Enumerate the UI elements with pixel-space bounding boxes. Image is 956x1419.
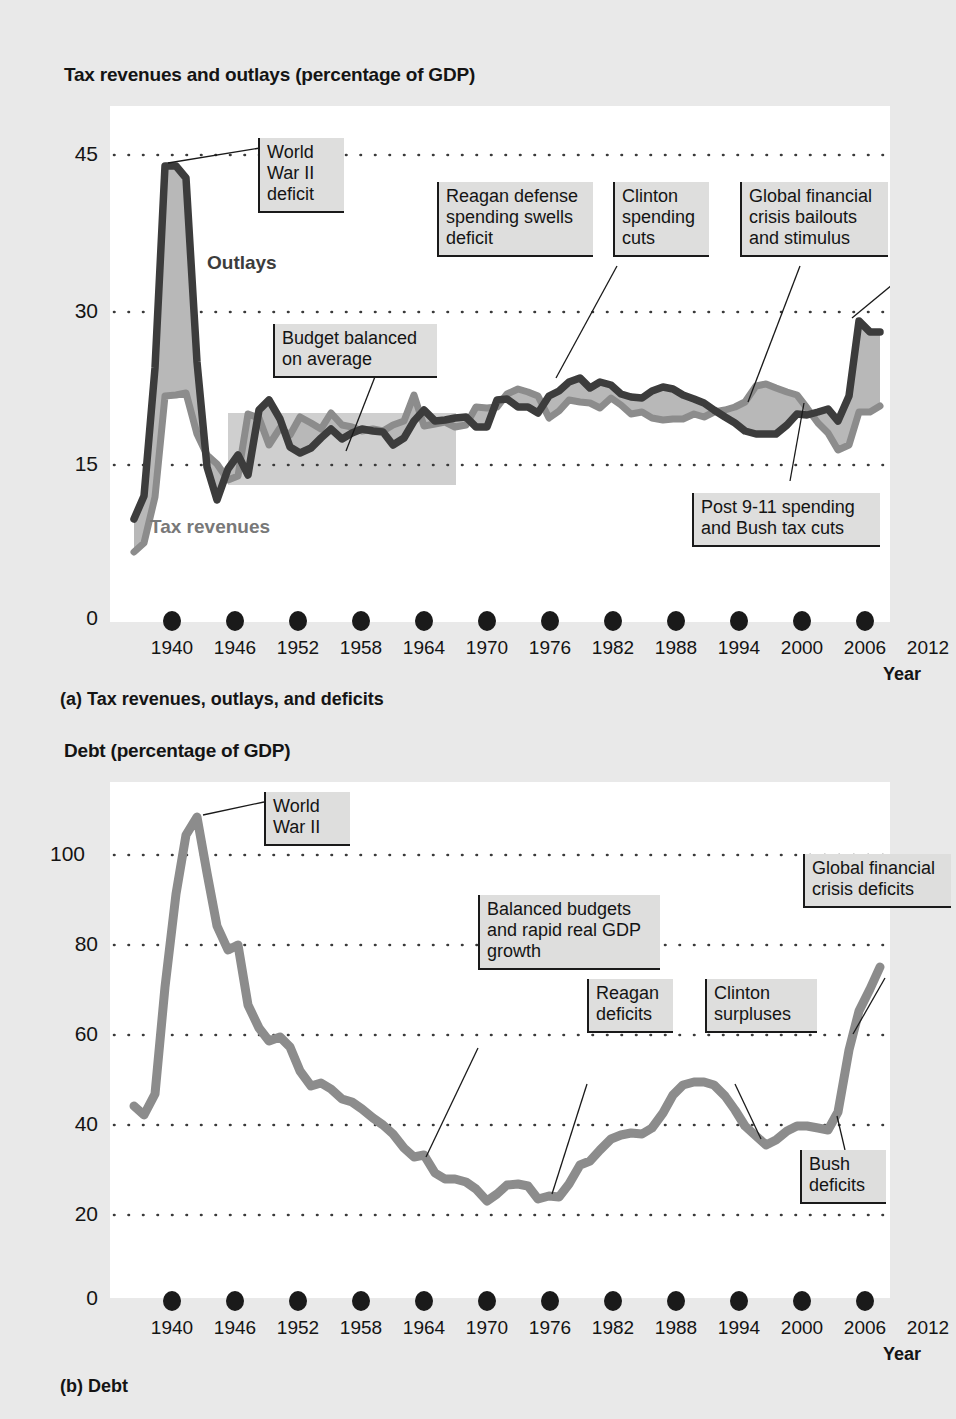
panel-b-xtick-markers: [110, 1288, 900, 1314]
panel-b-xtick-2006: 2006: [835, 1317, 895, 1339]
panel-b-ytick-100: 100: [25, 842, 85, 866]
panel-a-ytick-30: 30: [38, 299, 98, 323]
panel-a-xtick-1982: 1982: [583, 637, 643, 659]
callout-budget-balanced: Budget balanced on average: [273, 324, 437, 378]
panel-a-xtick-1958: 1958: [331, 637, 391, 659]
panel-a-xtick-markers: [110, 608, 900, 634]
panel-a-xtick-1964: 1964: [394, 637, 454, 659]
callout-clinton-surpluses: Clinton surpluses: [705, 979, 817, 1033]
panel-b-ytick-0: 0: [38, 1286, 98, 1310]
callout-wwii-deficit: World War II deficit: [258, 138, 344, 213]
panel-a-ytick-15: 15: [38, 452, 98, 476]
callout-wwii: World War II: [264, 792, 350, 846]
panel-b-plot-area: [110, 782, 890, 1298]
panel-b-xtick-1988: 1988: [646, 1317, 706, 1339]
panel-b-xtick-2000: 2000: [772, 1317, 832, 1339]
panel-a-xaxis-name: Year: [883, 664, 921, 685]
panel-b-ytick-60: 60: [38, 1022, 98, 1046]
panel-b-ytick-80: 80: [38, 932, 98, 956]
panel-a-xtick-1940: 1940: [142, 637, 202, 659]
callout-post-911-bush: Post 9-11 spending and Bush tax cuts: [692, 493, 880, 547]
panel-a-xtick-2000: 2000: [772, 637, 832, 659]
panel-b-title: Debt (percentage of GDP): [64, 740, 290, 762]
panel-b-ytick-40: 40: [38, 1112, 98, 1136]
panel-a-xtick-1946: 1946: [205, 637, 265, 659]
panel-b-xtick-1964: 1964: [394, 1317, 454, 1339]
panel-b-xtick-1958: 1958: [331, 1317, 391, 1339]
callout-reagan-deficits: Reagan deficits: [587, 979, 673, 1033]
panel-b-xtick-1982: 1982: [583, 1317, 643, 1339]
callout-bush-deficits: Bush deficits: [800, 1150, 886, 1204]
panel-a-ytick-0: 0: [38, 606, 98, 630]
panel-a-xtick-1952: 1952: [268, 637, 328, 659]
panel-b-ytick-20: 20: [38, 1202, 98, 1226]
callout-reagan-defense: Reagan defense spending swells deficit: [437, 182, 593, 257]
callout-balanced-budgets: Balanced budgets and rapid real GDP grow…: [478, 895, 660, 970]
panel-b-xtick-2012: 2012: [898, 1317, 956, 1339]
figure-page: Tax revenues and outlays (percentage of …: [0, 0, 956, 1419]
panel-b-xtick-1940: 1940: [142, 1317, 202, 1339]
callout-global-financial-crisis-deficits: Global financial crisis deficits: [803, 854, 951, 908]
panel-b-xtick-1976: 1976: [520, 1317, 580, 1339]
panel-a-xtick-1988: 1988: [646, 637, 706, 659]
panel-a-title: Tax revenues and outlays (percentage of …: [64, 64, 475, 86]
panel-a-xtick-1976: 1976: [520, 637, 580, 659]
panel-a-xtick-1970: 1970: [457, 637, 517, 659]
panel-a-caption: (a) Tax revenues, outlays, and deficits: [60, 689, 384, 710]
panel-a-xtick-2006: 2006: [835, 637, 895, 659]
callout-global-financial-crisis: Global financial crisis bailouts and sti…: [740, 182, 888, 257]
panel-a-ytick-45: 45: [38, 142, 98, 166]
panel-b-xaxis-name: Year: [883, 1344, 921, 1365]
outlays-series-label: Outlays: [207, 252, 277, 274]
panel-b-xtick-1952: 1952: [268, 1317, 328, 1339]
panel-a-xtick-1994: 1994: [709, 637, 769, 659]
panel-b-chart-svg: [110, 782, 890, 1298]
tax-revenues-series-label: Tax revenues: [150, 516, 270, 538]
panel-b-xtick-1946: 1946: [205, 1317, 265, 1339]
panel-b-caption: (b) Debt: [60, 1376, 128, 1397]
callout-clinton-spending-cuts: Clinton spending cuts: [613, 182, 709, 257]
panel-b-xtick-1994: 1994: [709, 1317, 769, 1339]
panel-b-xtick-1970: 1970: [457, 1317, 517, 1339]
panel-a-xtick-2012: 2012: [898, 637, 956, 659]
